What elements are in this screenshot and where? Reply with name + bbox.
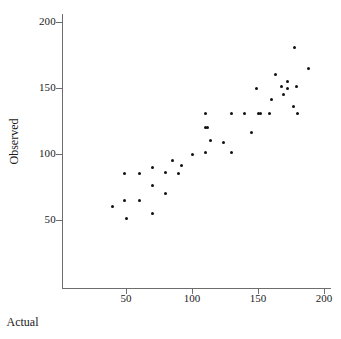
data-point — [177, 172, 180, 175]
data-point — [123, 172, 126, 175]
data-point — [123, 199, 126, 202]
data-point — [125, 217, 128, 220]
data-point — [270, 98, 273, 101]
data-point — [171, 159, 174, 162]
y-tick-label: 150 — [0, 82, 56, 93]
data-point — [191, 153, 194, 156]
y-tick-mark — [56, 88, 62, 89]
y-tick-label-text: 150 — [30, 82, 56, 93]
y-tick-mark — [56, 154, 62, 155]
x-tick-label: 150 — [238, 293, 278, 304]
data-point — [164, 192, 167, 195]
data-point — [292, 105, 295, 108]
data-point — [164, 171, 167, 174]
data-point — [280, 85, 283, 88]
y-tick-label-text: 100 — [30, 148, 56, 159]
y-tick-label: 200 — [0, 16, 56, 27]
data-point — [243, 112, 246, 115]
data-point — [206, 126, 209, 129]
data-point — [204, 112, 207, 115]
data-point — [230, 112, 233, 115]
data-point — [250, 131, 253, 134]
y-tick-mark — [56, 22, 62, 23]
data-point — [151, 184, 154, 187]
x-axis-title: Actual — [0, 315, 341, 330]
data-point — [151, 212, 154, 215]
data-point — [111, 205, 114, 208]
data-point — [295, 85, 298, 88]
data-point — [138, 172, 141, 175]
data-point — [180, 164, 183, 167]
x-axis-title-text: Actual — [7, 315, 39, 329]
data-point — [282, 93, 285, 96]
data-point — [293, 46, 296, 49]
data-point — [274, 73, 277, 76]
y-axis-title: Observed — [7, 106, 22, 178]
data-point — [286, 87, 289, 90]
data-point — [286, 80, 289, 83]
data-point — [259, 112, 262, 115]
x-tick-label: 50 — [106, 293, 146, 304]
data-point — [230, 151, 233, 154]
data-point — [151, 166, 154, 169]
data-point — [209, 139, 212, 142]
scatter-plot: 50100150200 50100150200 Actual Observed — [0, 0, 341, 339]
y-axis-line — [62, 14, 63, 288]
x-tick-label: 200 — [304, 293, 341, 304]
y-tick-label-text: 200 — [30, 16, 56, 27]
y-tick-label-text: 50 — [30, 214, 56, 225]
data-point — [138, 199, 141, 202]
data-point — [307, 67, 310, 70]
data-point — [204, 151, 207, 154]
data-point — [222, 141, 225, 144]
x-axis-line — [62, 288, 331, 289]
data-point — [255, 87, 258, 90]
y-tick-label: 50 — [0, 214, 56, 225]
data-point — [268, 112, 271, 115]
y-tick-mark — [56, 220, 62, 221]
data-point — [296, 112, 299, 115]
x-tick-label: 100 — [172, 293, 212, 304]
